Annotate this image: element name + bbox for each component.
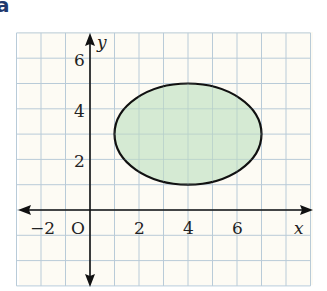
x-tick-label: 6 bbox=[232, 218, 243, 238]
y-tick-label: 2 bbox=[74, 151, 85, 171]
x-axis-label: x bbox=[294, 218, 304, 238]
x-tick-label: 2 bbox=[134, 218, 145, 238]
x-tick-label: −2 bbox=[30, 218, 55, 238]
x-tick-label: 4 bbox=[183, 218, 194, 238]
y-axis-label: y bbox=[96, 32, 107, 52]
ellipse-grid-diagram: a y x O −2 2 4 6 2 4 6 bbox=[0, 0, 327, 291]
y-tick-label: 4 bbox=[74, 101, 85, 121]
origin-label: O bbox=[71, 218, 85, 238]
part-label: a bbox=[0, 0, 10, 17]
y-tick-label: 6 bbox=[74, 50, 85, 70]
